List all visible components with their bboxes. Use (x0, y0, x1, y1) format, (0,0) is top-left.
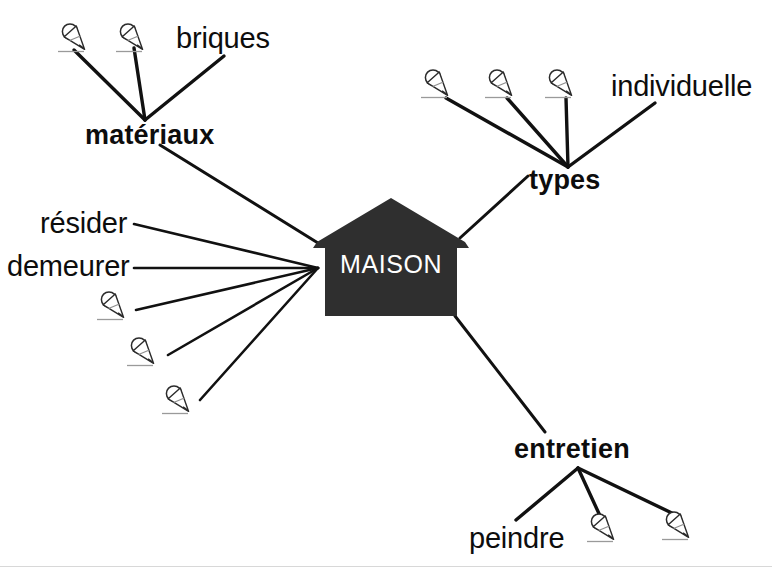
pencil-writing-icon[interactable] (484, 68, 524, 102)
edge-materiaux-briques (145, 56, 224, 120)
pencil-writing-icon[interactable] (661, 510, 701, 544)
edge-types-pencil-1 (446, 98, 568, 167)
mindmap-canvas: MAISON matériaux types entretien briques… (0, 0, 772, 567)
branch-label-entretien[interactable]: entretien (514, 434, 630, 465)
edge-house-entretien (455, 316, 545, 432)
center-node-label: MAISON (340, 250, 442, 279)
edge-entretien-peindre (516, 468, 578, 520)
leaf-label-resider[interactable]: résider (40, 207, 127, 240)
edge-types-pencil-2 (507, 98, 568, 167)
edge-house-materiaux (160, 145, 318, 243)
pencil-writing-icon[interactable] (126, 336, 166, 370)
edge-house-pencil-2 (168, 268, 318, 355)
pencil-writing-icon[interactable] (586, 512, 626, 546)
leaf-label-demeurer[interactable]: demeurer (7, 250, 130, 283)
edge-house-pencil-3 (200, 268, 318, 400)
edge-entretien-pencil-2 (578, 468, 676, 515)
leaf-label-peindre[interactable]: peindre (469, 522, 564, 555)
branch-label-types[interactable]: types (529, 165, 601, 196)
leaf-label-briques[interactable]: briques (176, 22, 270, 55)
pencil-writing-icon[interactable] (420, 68, 460, 102)
leaf-label-individuelle[interactable]: individuelle (611, 70, 752, 103)
edge-house-pencil-1 (136, 268, 318, 310)
pencil-writing-icon[interactable] (161, 384, 201, 418)
edge-types-individuelle (568, 103, 655, 167)
edge-house-resider (134, 224, 318, 268)
pencil-writing-icon[interactable] (544, 68, 584, 102)
edge-types-pencil-3 (566, 98, 568, 167)
pencil-writing-icon[interactable] (115, 22, 155, 56)
edge-house-types (460, 176, 528, 238)
pencil-writing-icon[interactable] (96, 290, 136, 324)
branch-label-materiaux[interactable]: matériaux (85, 120, 214, 151)
pencil-writing-icon[interactable] (57, 22, 97, 56)
